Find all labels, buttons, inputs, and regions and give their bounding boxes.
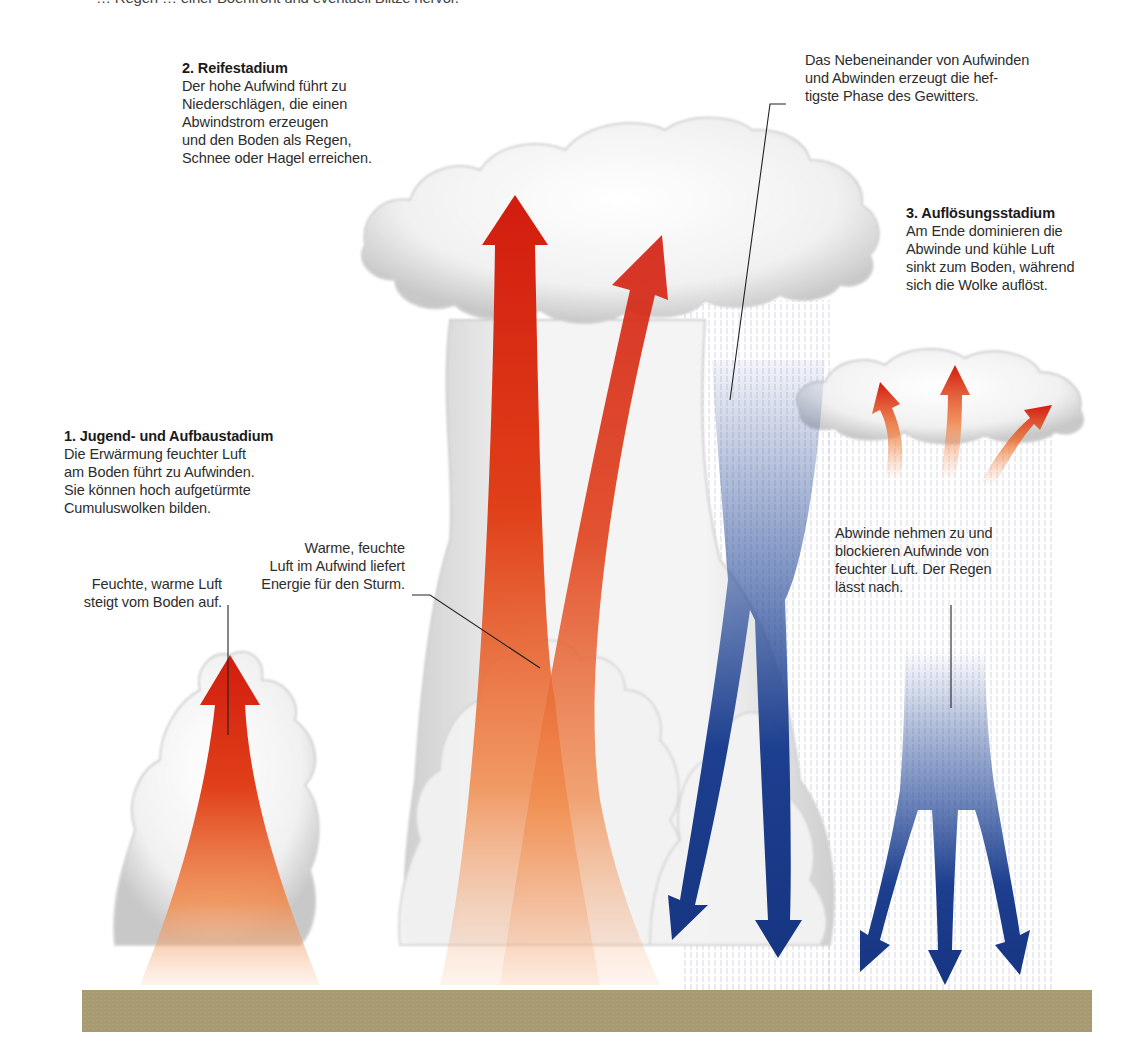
stage2-line: Abwindstrom erzeugen — [182, 113, 372, 131]
stage1-line: Cumuluswolken bilden. — [64, 499, 273, 517]
stage1-line: Sie können hoch aufgetürmte — [64, 481, 273, 499]
stage2-label: 2. Reifestadium Der hohe Aufwind führt z… — [182, 59, 372, 167]
stage3-title: 3. Auflösungsstadium — [906, 204, 1074, 222]
stage3-line: sinkt zum Boden, während — [906, 258, 1074, 276]
stage3-label: 3. Auflösungsstadium Am Ende dominieren … — [906, 204, 1074, 294]
annotation-line: Luft im Aufwind liefert — [230, 557, 405, 575]
ground — [82, 990, 1092, 1032]
annotation-line: Das Nebeneinander von Aufwinden — [805, 51, 1029, 69]
stage2-line: Schnee oder Hagel erreichen. — [182, 149, 372, 167]
stage2-line: Niederschlägen, die einen — [182, 95, 372, 113]
warm-air-energy-annotation: Warme, feuchte Luft im Aufwind liefert E… — [230, 539, 405, 593]
stage2-line: Der hohe Aufwind führt zu — [182, 77, 372, 95]
coexistence-annotation: Das Nebeneinander von Aufwinden und Abwi… — [805, 51, 1029, 105]
annotation-line: Abwinde nehmen zu und — [835, 524, 993, 542]
annotation-line: Energie für den Sturm. — [230, 575, 405, 593]
annotation-line: Warme, feuchte — [230, 539, 405, 557]
stage1-line: Die Erwärmung feuchter Luft — [64, 445, 273, 463]
moist-air-annotation: Feuchte, warme Luft steigt vom Boden auf… — [50, 575, 222, 611]
stage2-line: und den Boden als Regen, — [182, 131, 372, 149]
stage3-line: Am Ende dominieren die — [906, 222, 1074, 240]
downdrafts-increase-annotation: Abwinde nehmen zu und blockieren Aufwind… — [835, 524, 993, 596]
annotation-line: lässt nach. — [835, 578, 993, 596]
annotation-line: steigt vom Boden auf. — [50, 593, 222, 611]
stage2-title: 2. Reifestadium — [182, 59, 372, 77]
annotation-line: blockieren Aufwinde von — [835, 542, 993, 560]
stage3-line: Abwinde und kühle Luft — [906, 240, 1074, 258]
stage1-title: 1. Jugend- und Aufbaustadium — [64, 427, 273, 445]
annotation-line: und Abwinden erzeugt die hef- — [805, 69, 1029, 87]
annotation-line: feuchter Luft. Der Regen — [835, 560, 993, 578]
annotation-line: tigste Phase des Gewitters. — [805, 87, 1029, 105]
stage1-line: am Boden führt zu Aufwinden. — [64, 463, 273, 481]
stage3-line: sich die Wolke auflöst. — [906, 276, 1074, 294]
annotation-line: Feuchte, warme Luft — [50, 575, 222, 593]
stage1-label: 1. Jugend- und Aufbaustadium Die Erwärmu… — [64, 427, 273, 517]
